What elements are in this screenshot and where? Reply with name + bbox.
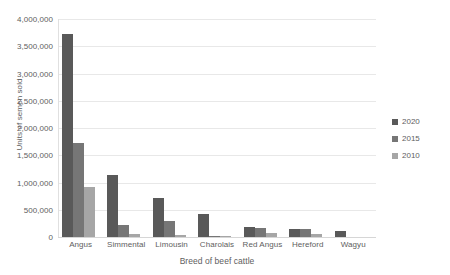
bar (220, 236, 231, 237)
x-axis-tick-label: Angus (58, 240, 103, 249)
bar-group (331, 19, 376, 237)
bar-groups (58, 19, 376, 237)
legend-item[interactable]: 2010 (392, 151, 420, 160)
y-axis-tick-label: 1,500,000 (17, 151, 53, 160)
y-axis-tick-labels: 0500,0001,000,0001,500,0002,000,0002,500… (0, 19, 57, 237)
x-axis-tick-label: Charolais (194, 240, 239, 249)
y-axis-tick-label: 0 (49, 233, 54, 242)
x-axis-tick-label: Simmental (103, 240, 148, 249)
x-axis-title: Breed of beef cattle (58, 256, 376, 266)
bar-group (194, 19, 239, 237)
x-axis-baseline (58, 237, 376, 238)
y-axis-tick-label: 2,000,000 (17, 124, 53, 133)
bar (198, 214, 209, 237)
x-axis-tick-label: Limousin (149, 240, 194, 249)
legend-item[interactable]: 2015 (392, 134, 420, 143)
bar-group (58, 19, 103, 237)
bar (255, 228, 266, 237)
plot-area (58, 19, 376, 237)
y-axis-tick-label: 4,000,000 (17, 15, 53, 24)
bar-chart: Units of semen sold 0500,0001,000,0001,5… (0, 0, 450, 275)
bar (153, 198, 164, 237)
bar (107, 175, 118, 237)
x-axis-tick-labels: AngusSimmentalLimousinCharolaisRed Angus… (58, 240, 376, 249)
bar (129, 234, 140, 237)
bar (244, 227, 255, 237)
bar (335, 231, 346, 237)
bar (84, 187, 95, 237)
bar (175, 235, 186, 237)
bar-group (285, 19, 330, 237)
legend-label: 2020 (402, 117, 420, 126)
y-axis-tick-label: 2,500,000 (17, 96, 53, 105)
legend-label: 2015 (402, 134, 420, 143)
y-axis-tick-label: 3,500,000 (17, 42, 53, 51)
legend-swatch-icon (392, 136, 398, 142)
bar (209, 236, 220, 237)
legend: 202020152010 (392, 117, 420, 168)
bar-group (103, 19, 148, 237)
x-axis-tick-label: Hereford (285, 240, 330, 249)
bar (266, 233, 277, 237)
bar (289, 229, 300, 237)
x-axis-tick-label: Red Angus (240, 240, 285, 249)
legend-item[interactable]: 2020 (392, 117, 420, 126)
bar (311, 234, 322, 237)
y-axis-tick-label: 500,000 (24, 205, 53, 214)
legend-swatch-icon (392, 119, 398, 125)
bar (164, 221, 175, 237)
legend-label: 2010 (402, 151, 420, 160)
legend-swatch-icon (392, 153, 398, 159)
bar-group (240, 19, 285, 237)
bar (73, 143, 84, 237)
y-axis-tick-label: 3,000,000 (17, 69, 53, 78)
bar-group (149, 19, 194, 237)
bar (300, 229, 311, 237)
x-axis-tick-label: Wagyu (331, 240, 376, 249)
bar (62, 34, 73, 237)
y-axis-tick-label: 1,000,000 (17, 178, 53, 187)
bar (118, 225, 129, 237)
